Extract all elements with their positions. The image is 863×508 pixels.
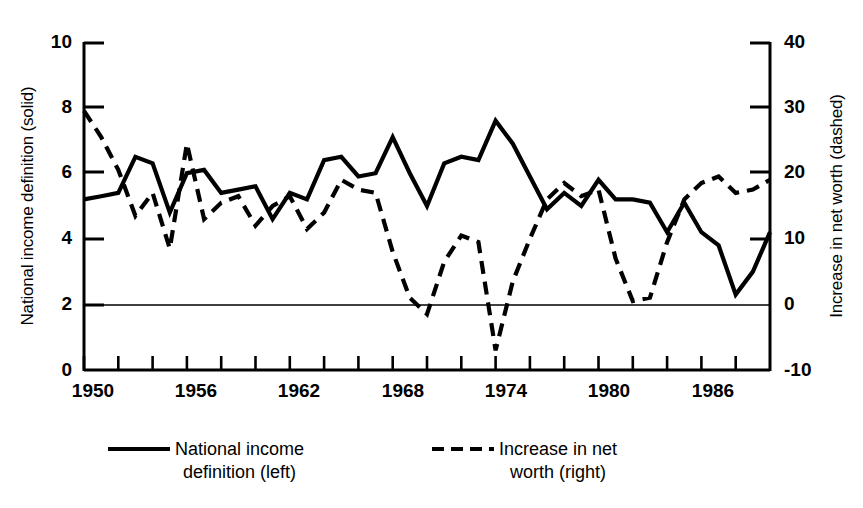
- legend-item-net-worth: Increase in net worth (right): [432, 438, 617, 484]
- series-line-national-income: [84, 121, 770, 295]
- legend-swatch-solid-line: [108, 438, 170, 458]
- legend-label-national-income: National income definition (left): [175, 438, 304, 484]
- chart-legend: National income definition (left) Increa…: [0, 432, 863, 508]
- legend-swatch-dashed-line: [432, 438, 494, 458]
- plot-area: [0, 0, 863, 430]
- legend-label-net-worth: Increase in net worth (right): [499, 438, 617, 484]
- legend-item-national-income: National income definition (left): [108, 438, 304, 484]
- chart-figure: National income definition (solid) Incre…: [0, 0, 863, 508]
- x-ticks: [84, 356, 736, 369]
- y-ticks-right: [750, 107, 770, 239]
